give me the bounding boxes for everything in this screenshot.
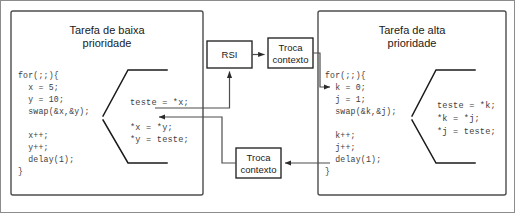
low-snippet-line-3: *y = teste; <box>130 135 189 145</box>
high-priority-task-panel: Tarefa de alta prioridade for(;;){ k = 0… <box>318 11 506 195</box>
high-code-line-5: k++; <box>325 131 356 140</box>
high-priority-task-title-line1: Tarefa de alta <box>379 24 447 36</box>
high-snippet-line-1: *k = *j; <box>437 114 480 124</box>
context-switch-bottom-box[interactable]: Troca contexto <box>236 148 281 178</box>
high-priority-task-title-line2: prioridade <box>388 37 437 49</box>
high-snippet-line-2: *j = teste; <box>437 127 496 137</box>
context-switch-diagram: Tarefa de baixa prioridade for(;;){ x = … <box>0 0 515 213</box>
high-snippet-line-0: teste = *k; <box>437 101 496 111</box>
low-priority-task-title-line1: Tarefa de baixa <box>69 24 145 36</box>
low-priority-task-title-line2: prioridade <box>83 37 132 49</box>
low-code-line-2: y = 10; <box>18 95 64 104</box>
high-code-line-0: for(;;){ <box>325 71 366 80</box>
isr-box[interactable]: RSI <box>207 41 252 68</box>
low-code-line-5: x++; <box>18 131 49 140</box>
high-code-line-1: k = 0; <box>325 83 366 92</box>
context-switch-top-label-line1: Troca <box>279 42 304 53</box>
context-switch-bottom-label-line2: contexto <box>241 164 277 175</box>
low-snippet-line-2: *x = *y; <box>130 123 173 133</box>
low-code-line-3: swap(&x,&y); <box>18 107 90 116</box>
diagram-root: Tarefa de baixa prioridade for(;;){ x = … <box>0 0 515 213</box>
context-switch-top-box[interactable]: Troca contexto <box>268 38 313 68</box>
context-switch-bottom-label-line1: Troca <box>247 152 272 163</box>
low-code-line-0: for(;;){ <box>18 71 59 80</box>
low-code-line-7: delay(1); <box>18 155 74 164</box>
high-code-line-2: j = 1; <box>325 95 366 104</box>
isr-box-label: RSI <box>222 49 238 60</box>
low-code-line-8: } <box>18 167 23 176</box>
high-code-line-3: swap(&k,&j); <box>325 107 397 116</box>
low-code-line-6: y++; <box>18 143 49 152</box>
low-priority-task-panel: Tarefa de baixa prioridade for(;;){ x = … <box>11 11 203 195</box>
high-code-line-8: } <box>325 167 330 176</box>
low-snippet-line-0: teste = *x; <box>130 98 189 108</box>
context-switch-top-label-line2: contexto <box>273 54 309 65</box>
high-code-line-6: j++; <box>325 143 356 152</box>
low-code-line-1: x = 5; <box>18 83 59 92</box>
high-code-line-7: delay(1); <box>325 155 381 164</box>
